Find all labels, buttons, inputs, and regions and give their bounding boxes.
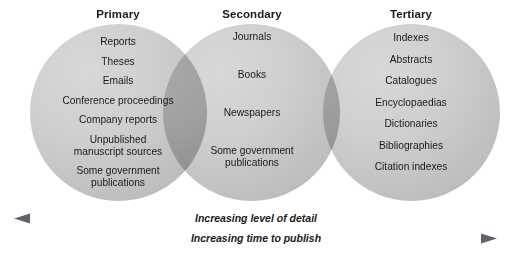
arrow-label-time-to-publish: Increasing time to publish	[146, 231, 366, 245]
list-item: Dictionaries	[341, 118, 481, 130]
list-item: Journals	[178, 31, 326, 43]
list-item: Encyclopaedias	[341, 97, 481, 109]
circle-heading-primary: Primary	[48, 8, 188, 20]
circle-heading-secondary: Secondary	[182, 8, 322, 20]
circle-heading-tertiary: Tertiary	[341, 8, 481, 20]
arrow-row-level-of-detail: Increasing level of detail	[0, 209, 511, 229]
list-item: Some government publications	[178, 145, 326, 169]
arrow-row-time-to-publish: Increasing time to publish	[0, 229, 511, 249]
list-item: Books	[178, 69, 326, 81]
list-item: Bibliographies	[341, 140, 481, 152]
venn-diagram: Primary Secondary Tertiary Reports These…	[0, 0, 511, 261]
list-item: Catalogues	[341, 75, 481, 87]
list-item: Abstracts	[341, 54, 481, 66]
list-item: Newspapers	[178, 107, 326, 119]
list-item: Citation indexes	[341, 161, 481, 173]
item-list-tertiary: Indexes Abstracts Catalogues Encyclopaed…	[341, 32, 481, 183]
item-list-secondary: Journals Books Newspapers Some governmen…	[178, 31, 326, 195]
list-item: Indexes	[341, 32, 481, 44]
arrow-label-level-of-detail: Increasing level of detail	[146, 211, 366, 225]
